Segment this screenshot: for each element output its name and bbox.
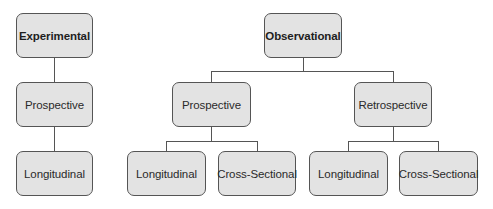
connector-obs-prospective-bar — [166, 141, 258, 142]
connector-obs-retrospective-drop — [393, 71, 394, 82]
node-observational-retrospective: Retrospective — [354, 82, 432, 127]
node-experimental: Experimental — [16, 13, 93, 58]
node-observational: Observational — [264, 13, 342, 58]
connector-obs-prospective-stem — [211, 127, 212, 141]
connector-obs-prospective-drop — [211, 71, 212, 82]
node-retrospective-cross-sectional: Cross-Sectional — [399, 151, 478, 196]
connector-experimental-prospective — [54, 58, 55, 82]
connector-obs-retrospective-bar — [348, 141, 439, 142]
connector-pro-longitudinal-drop — [166, 141, 167, 151]
connector-prospective-longitudinal — [54, 127, 55, 151]
node-experimental-longitudinal: Longitudinal — [16, 151, 93, 196]
node-prospective-longitudinal: Longitudinal — [127, 151, 206, 196]
node-prospective-cross-sectional: Cross-Sectional — [218, 151, 296, 196]
connector-obs-retrospective-stem — [393, 127, 394, 141]
connector-observational-bar — [211, 71, 394, 72]
node-observational-prospective: Prospective — [172, 82, 251, 127]
connector-retro-cross-sectional-drop — [438, 141, 439, 151]
node-retrospective-longitudinal: Longitudinal — [309, 151, 388, 196]
connector-pro-cross-sectional-drop — [257, 141, 258, 151]
connector-observational-stem — [303, 58, 304, 71]
connector-retro-longitudinal-drop — [348, 141, 349, 151]
node-experimental-prospective: Prospective — [16, 82, 93, 127]
